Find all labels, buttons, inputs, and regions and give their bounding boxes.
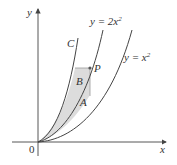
origin-label: 0: [29, 143, 35, 155]
curve-y-2x2-label: y = 2x2: [89, 15, 122, 27]
region-a-label: A: [79, 96, 87, 108]
figure-canvas: y x 0 C y = 2x2 y = x2 P B A: [0, 0, 177, 165]
x-axis-label: x: [159, 143, 165, 155]
point-p: [88, 66, 91, 69]
curve-c-label: C: [67, 37, 75, 49]
region-b-label: B: [76, 75, 83, 87]
y-axis-label: y: [26, 6, 32, 18]
curve-y-x2-label: y = x2: [123, 51, 151, 63]
point-p-label: P: [93, 62, 101, 74]
